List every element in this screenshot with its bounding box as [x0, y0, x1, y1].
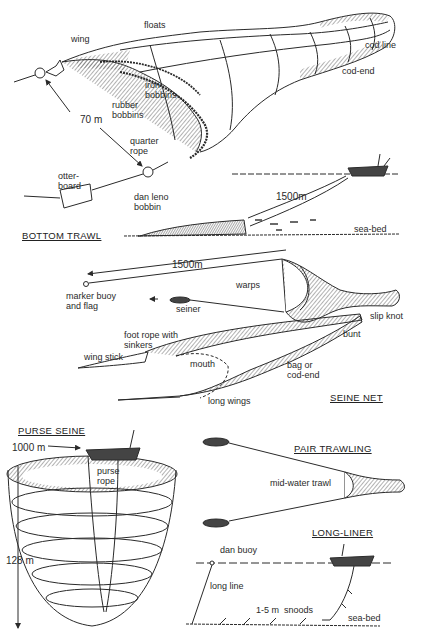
- label-quarter-rope: quarter rope: [130, 136, 159, 156]
- label-mouth: mouth: [190, 359, 215, 369]
- label-slip-knot: slip knot: [370, 311, 403, 321]
- label-1500m-trawl: 1500m: [276, 192, 307, 202]
- label-purse-rope: purse rope: [97, 466, 120, 486]
- title-seine-net: SEINE NET: [330, 392, 383, 403]
- label-dan-buoy: dan buoy: [220, 545, 257, 555]
- label-1500m-seine: 1500m: [172, 260, 203, 270]
- label-wing: wing: [71, 34, 90, 44]
- title-long-liner: LONG-LINER: [312, 527, 373, 538]
- label-iron-bobbins: iron bobbins: [145, 80, 177, 100]
- label-marker-buoy: marker buoy and flag: [66, 291, 116, 311]
- label-snoods: 1-5 m snoods: [256, 605, 313, 615]
- label-dan-leno-bobbin: dan leno bobbin: [134, 192, 169, 212]
- label-bunt: bunt: [343, 329, 361, 339]
- label-warps: warps: [236, 280, 260, 290]
- label-mid-water-trawl: mid-water trawl: [270, 478, 331, 488]
- label-floats: floats: [144, 20, 166, 30]
- label-1000m: 1000 m: [12, 443, 45, 453]
- label-128m: 128 m: [6, 556, 34, 566]
- label-cod-line: cod line: [365, 40, 396, 50]
- label-long-line: long line: [210, 581, 244, 591]
- label-seiner: seiner: [176, 304, 201, 314]
- label-foot-rope: foot rope with sinkers: [124, 330, 178, 350]
- seine-net-illustration: [78, 250, 399, 400]
- label-70m: 70 m: [80, 115, 102, 125]
- purse-seine-illustration: [7, 430, 177, 628]
- title-purse-seine: PURSE SEINE: [18, 425, 85, 436]
- label-rubber-bobbins: rubber bobbins: [112, 100, 144, 120]
- title-pair-trawling: PAIR TRAWLING: [294, 443, 372, 454]
- label-wing-stick: wing stick: [84, 352, 123, 362]
- label-sea-bed-longline: sea-bed: [348, 613, 381, 623]
- label-otter-board: otter- board: [58, 171, 81, 191]
- label-cod-end: cod-end: [342, 66, 375, 76]
- label-long-wings: long wings: [208, 396, 251, 406]
- label-bag-cod-end: bag or cod-end: [287, 360, 320, 380]
- title-bottom-trawl: BOTTOM TRAWL: [22, 230, 101, 241]
- label-sea-bed-trawl: sea-bed: [354, 224, 387, 234]
- bottom-trawl-illustration: [14, 13, 400, 236]
- fishing-methods-diagram: [0, 0, 421, 641]
